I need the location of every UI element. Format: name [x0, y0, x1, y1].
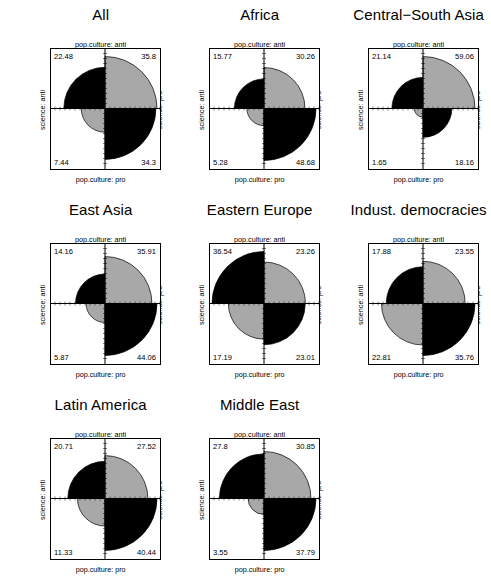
corner-value-bottom-left: 17.19: [213, 353, 232, 362]
corner-value-top-left: 15.77: [213, 52, 232, 61]
plot-area: pop.culture: antipop.culture: proscience…: [21, 422, 180, 577]
panel-title: Eastern Europe: [180, 201, 339, 218]
panel-east-asia: East Asiapop.culture: antipop.culture: p…: [21, 195, 180, 390]
axis-label-left: science: anti: [356, 285, 365, 325]
panel-title: Middle East: [180, 396, 339, 413]
corner-value-top-right: 35.8: [141, 52, 156, 61]
corner-value-bottom-right: 48.68: [296, 158, 315, 167]
corner-value-top-left: 17.88: [372, 247, 391, 256]
fourfold-plot-canvas: 17.8823.5522.8135.76: [368, 243, 479, 365]
corner-value-bottom-right: 34.3: [141, 158, 156, 167]
panel-all: Allpop.culture: antipop.culture: proscie…: [21, 0, 180, 195]
panel-title: All: [21, 6, 180, 23]
corner-value-top-left: 36.54: [213, 247, 232, 256]
axis-label-bottom: pop.culture: pro: [180, 565, 339, 574]
axis-label-left: science: anti: [197, 480, 206, 520]
corner-value-bottom-left: 1.65: [372, 158, 387, 167]
axis-label-left: science: anti: [356, 90, 365, 130]
corner-value-top-left: 21.14: [372, 52, 391, 61]
fourfold-plot-canvas: 27.830.853.5537.79: [209, 438, 320, 560]
corner-value-bottom-left: 11.33: [54, 548, 72, 557]
plot-area: pop.culture: antipop.culture: proscience…: [180, 422, 339, 577]
corner-value-bottom-left: 22.81: [372, 353, 391, 362]
plot-area: pop.culture: antipop.culture: proscience…: [180, 32, 339, 187]
plot-area: pop.culture: antipop.culture: proscience…: [21, 32, 180, 187]
axis-label-bottom: pop.culture: pro: [339, 175, 491, 184]
panel-indust-democracies: Indust. democraciespop.culture: antipop.…: [339, 195, 491, 390]
fourfold-plot-canvas: 21.1459.061.6518.16: [368, 48, 479, 170]
plot-area: pop.culture: antipop.culture: proscience…: [21, 227, 180, 382]
axis-label-bottom: pop.culture: pro: [180, 370, 339, 379]
panel-title: Latin America: [21, 396, 180, 413]
corner-value-top-left: 27.8: [213, 442, 228, 451]
corner-value-bottom-right: 18.16: [455, 158, 474, 167]
axis-label-left: science: anti: [197, 285, 206, 325]
corner-value-top-right: 23.55: [455, 247, 474, 256]
plot-area: pop.culture: antipop.culture: proscience…: [180, 227, 339, 382]
corner-value-top-left: 20.71: [54, 442, 73, 451]
panel-title: Africa: [180, 6, 339, 23]
panel-title: East Asia: [21, 201, 180, 218]
panel-title: Indust. democracies: [339, 201, 491, 218]
axis-label-bottom: pop.culture: pro: [21, 565, 180, 574]
corner-value-bottom-right: 44.06: [137, 353, 156, 362]
corner-value-bottom-right: 23.01: [296, 353, 315, 362]
axis-label-bottom: pop.culture: pro: [180, 175, 339, 184]
corner-value-top-left: 14.16: [54, 247, 73, 256]
corner-value-top-right: 59.06: [455, 52, 474, 61]
corner-value-bottom-left: 3.55: [213, 548, 228, 557]
axis-label-left: science: anti: [38, 285, 47, 325]
panel-title: Central−South Asia: [339, 6, 491, 23]
corner-value-top-right: 30.26: [296, 52, 315, 61]
corner-value-bottom-left: 5.28: [213, 158, 228, 167]
panel-middle-east: Middle Eastpop.culture: antipop.culture:…: [180, 390, 339, 585]
corner-value-top-right: 27.52: [137, 442, 156, 451]
axis-label-bottom: pop.culture: pro: [339, 370, 491, 379]
fourfold-plot-canvas: 15.7730.265.2848.68: [209, 48, 320, 170]
corner-value-bottom-left: 5.87: [54, 353, 69, 362]
panel-latin-america: Latin Americapop.culture: antipop.cultur…: [21, 390, 180, 585]
fourfold-plot-canvas: 36.5423.2617.1923.01: [209, 243, 320, 365]
axis-label-left: science: anti: [38, 480, 47, 520]
panel-eastern-europe: Eastern Europepop.culture: antipop.cultu…: [180, 195, 339, 390]
axis-label-left: science: anti: [38, 90, 47, 130]
panel-central-south-asia: Central−South Asiapop.culture: antipop.c…: [339, 0, 491, 195]
panel-africa: Africapop.culture: antipop.culture: pros…: [180, 0, 339, 195]
axis-label-bottom: pop.culture: pro: [21, 175, 180, 184]
fourfold-plot-canvas: 14.1635.915.8744.06: [50, 243, 161, 365]
corner-value-top-right: 30.85: [296, 442, 315, 451]
corner-value-bottom-right: 37.79: [296, 548, 315, 557]
axis-label-left: science: anti: [197, 90, 206, 130]
corner-value-top-right: 35.91: [137, 247, 156, 256]
corner-value-bottom-right: 40.44: [137, 548, 156, 557]
corner-value-bottom-left: 7.44: [54, 158, 69, 167]
corner-value-bottom-right: 35.76: [455, 353, 474, 362]
fourfold-plot-canvas: 22.4835.87.4434.3: [50, 48, 161, 170]
axis-label-bottom: pop.culture: pro: [21, 370, 180, 379]
corner-value-top-left: 22.48: [54, 52, 73, 61]
fourfold-plot-canvas: 20.7127.5211.3340.44: [50, 438, 161, 560]
plot-area: pop.culture: antipop.culture: proscience…: [339, 32, 491, 187]
corner-value-top-right: 23.26: [296, 247, 315, 256]
plot-area: pop.culture: antipop.culture: proscience…: [339, 227, 491, 382]
